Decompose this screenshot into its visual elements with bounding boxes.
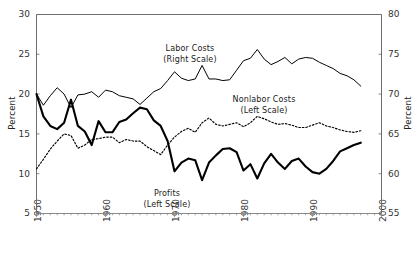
chart-container: Percent Percent 30 25 20 15 10 5 80 75 7… xyxy=(0,0,419,264)
plot-area xyxy=(0,0,419,264)
series-line-nonlabor-costs xyxy=(37,116,361,169)
series-line-labor-costs xyxy=(37,50,361,108)
series-line-profits xyxy=(37,94,361,180)
plot-frame xyxy=(37,15,382,214)
